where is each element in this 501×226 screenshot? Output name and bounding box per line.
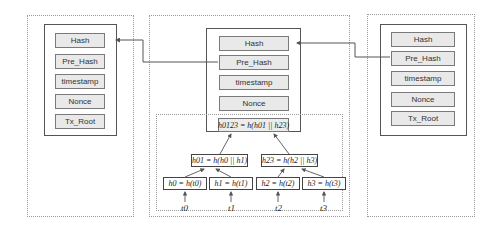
pre-hash-link-current-to-previous	[116, 40, 218, 62]
pre-hash-link-next-to-current	[297, 43, 390, 57]
connector-lines	[0, 0, 501, 226]
